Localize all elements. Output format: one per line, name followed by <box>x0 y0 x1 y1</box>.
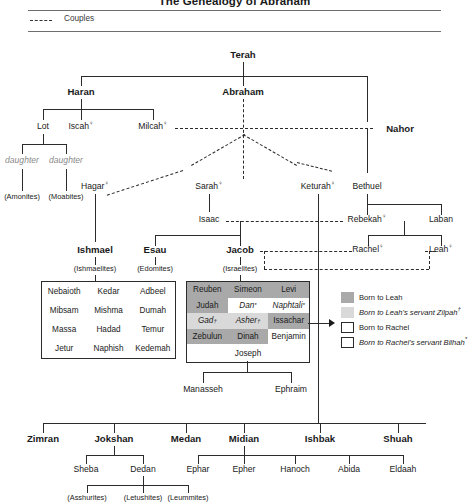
connector-terah-bar <box>81 76 367 77</box>
node-leah: Leah♀ <box>429 245 453 254</box>
node-keturah: Keturah♀ <box>301 182 336 191</box>
node-zimran: Zimran <box>27 434 59 445</box>
node-moabites: (Moabites) <box>49 193 84 201</box>
connector-to-haran <box>81 76 82 86</box>
node-ephraim: Ephraim <box>275 385 307 394</box>
node-ishbak: Ishbak <box>305 434 335 445</box>
node-terah: Terah <box>230 50 255 61</box>
connector-to-shuah <box>398 423 399 433</box>
connector-midian-down <box>244 446 245 455</box>
connector-haran-down <box>81 99 82 109</box>
connector-to-asshurites <box>87 485 88 493</box>
ishmael-son: Kedar <box>86 282 130 301</box>
couple-jacob-rachel <box>260 251 352 252</box>
connector-to-lot <box>43 109 44 120</box>
tribe-gad: Gad† <box>187 313 228 329</box>
connector-to-manasseh <box>203 372 204 383</box>
connector-to-zimran <box>43 423 44 433</box>
node-milcah: Milcah♀ <box>138 122 167 131</box>
connector-to-daughter2 <box>66 144 67 154</box>
node-manasseh: Manasseh <box>183 385 223 394</box>
legend-pointer-arrow <box>329 319 335 327</box>
header-rule-bottom <box>28 31 441 32</box>
genealogy-chart: The Genealogy of Abraham Couples Terah H… <box>0 0 469 504</box>
node-abraham: Abraham <box>222 87 264 98</box>
connector-to-midian <box>244 423 245 433</box>
connector-isaac-bar <box>155 235 240 236</box>
connector-haran-bar <box>43 109 153 110</box>
node-sarah: Sarah♀ <box>195 182 223 191</box>
connector-to-jokshan <box>114 423 115 433</box>
connector-keturah-down <box>318 194 319 423</box>
connector-to-milcah <box>153 109 154 120</box>
node-shuah: Shuah <box>383 434 412 445</box>
connector-keturah-bar <box>43 423 426 424</box>
connector-to-eldaah <box>403 455 404 464</box>
legend-label-leah: Born to Leah <box>359 293 403 302</box>
connector-joseph-bar <box>203 372 291 373</box>
connector-to-dedan <box>143 455 144 464</box>
ishmael-son: Dumah <box>131 301 175 320</box>
couple-loop-right <box>429 251 430 269</box>
connector-to-letushites <box>143 485 144 493</box>
tribe-simeon: Simeon <box>228 282 269 298</box>
legend-label-bilhah: Born to Rachel's servant Bilhah* <box>359 338 467 347</box>
node-hanoch: Hanoch <box>280 465 310 474</box>
ishmael-son: Mishma <box>86 301 130 320</box>
ishmael-son: Naphish <box>86 339 130 358</box>
node-amonites: (Amonites) <box>4 193 40 201</box>
couple-loop-bottom <box>264 269 429 270</box>
page-title: The Genealogy of Abraham <box>0 0 469 7</box>
connector-to-daughter1 <box>22 144 23 154</box>
ishmael-son: Nebaioth <box>42 282 86 301</box>
couple-isaac-rebekah <box>226 221 343 222</box>
node-ishmael: Ishmael <box>77 245 113 256</box>
connector-to-ishbak <box>320 423 321 433</box>
legend-swatch-bilhah <box>341 337 354 348</box>
connector-isaac-down <box>240 221 241 235</box>
node-ephar: Ephar <box>187 465 210 474</box>
connector-laban-down <box>404 221 405 235</box>
ishmael-sons-box: NebaiothKedarAdbeelMibsamMishmaDumahMass… <box>41 281 176 359</box>
couple-abraham-hagar-seg1 <box>107 170 183 196</box>
legend-label-zilpah: Born to Leah's servant Zilpah† <box>359 308 461 317</box>
connector-to-hanoch <box>295 455 296 464</box>
couple-jacob-leah-stub <box>425 251 436 252</box>
legend-couples-label: Couples <box>64 14 94 23</box>
node-laban: Laban <box>429 215 453 224</box>
connector-lot-bar <box>22 144 66 145</box>
couple-abraham-keturah-seg1 <box>243 134 297 166</box>
connector-ishmael-down <box>95 257 96 265</box>
connector-to-abraham <box>243 76 244 86</box>
connector-ishmael-to-box <box>95 275 96 281</box>
node-dedan: Dedan <box>130 465 155 474</box>
node-isaac: Isaac <box>199 215 220 224</box>
connector-to-ephar <box>198 455 199 464</box>
connector-midian-bar <box>198 455 403 456</box>
node-letushites: (Letushites) <box>124 494 163 502</box>
connector-laban-bar <box>368 235 441 236</box>
dashed-line-icon <box>30 20 52 21</box>
node-daughter-1: daughter <box>5 156 39 165</box>
connector-esau-down <box>155 257 156 265</box>
couple-abraham-keturah-seg2 <box>297 162 332 172</box>
node-esau: Esau <box>144 245 167 256</box>
node-rachel: Rachel♀ <box>352 245 383 254</box>
connector-hagar-ishmael <box>95 194 96 242</box>
connector-daughter1-down <box>22 169 23 191</box>
ishmael-son: Temur <box>131 320 175 339</box>
connector-joseph-down <box>247 361 248 372</box>
ishmael-son: Mibsam <box>42 301 86 320</box>
header-rule-top <box>28 10 441 11</box>
tribe-joseph: Joseph <box>187 344 309 362</box>
tribes-box: ReubenSimeonLeviJudahDan*Naphtali*Gad†As… <box>186 281 310 363</box>
connector-jacob-to-box <box>240 275 241 281</box>
connector-to-epher <box>244 455 245 464</box>
legend-swatch-rachel <box>341 322 354 333</box>
couple-abraham-sarah <box>243 99 244 179</box>
connector-to-abida <box>349 455 350 464</box>
node-medan: Medan <box>171 434 201 445</box>
connector-to-ephraim <box>291 372 292 383</box>
couple-loop-left <box>264 251 265 269</box>
connector-dedan-down <box>143 476 144 485</box>
